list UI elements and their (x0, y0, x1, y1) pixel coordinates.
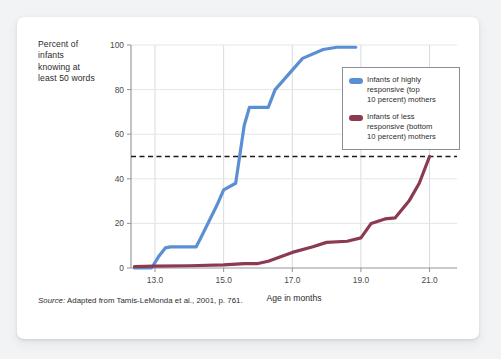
source-note-lead: Source: (38, 296, 65, 305)
legend-swatch-blue (349, 78, 363, 84)
x-axis-ticks: 13.015.017.019.021.0 (147, 268, 438, 285)
y-axis-ticks: 020406080100 (110, 40, 131, 273)
chart-legend: Infants of highly responsive (top 10 per… (342, 67, 460, 150)
figure-card: Percent of infants knowing at least 50 w… (17, 17, 479, 339)
legend-line-2: responsive (top (367, 85, 420, 94)
series-line-less-responsive (134, 157, 429, 267)
legend-item-less-responsive: Infants of less responsive (bottom 10 pe… (349, 112, 453, 141)
x-tick-label: 13.0 (147, 275, 164, 285)
legend-line-2: responsive (bottom (367, 122, 432, 131)
source-note: Source: Adapted from Tamis-LeMonda et al… (38, 296, 243, 305)
y-tick-label: 80 (115, 85, 125, 95)
legend-swatch-maroon (349, 115, 363, 121)
legend-label-highly-responsive: Infants of highly responsive (top 10 per… (367, 75, 436, 104)
legend-label-less-responsive: Infants of less responsive (bottom 10 pe… (367, 112, 436, 141)
x-tick-label: 21.0 (421, 275, 438, 285)
legend-line-3: 10 percent) mothers (367, 132, 436, 141)
y-tick-label: 60 (115, 129, 125, 139)
line-chart: 020406080100 13.015.017.019.021.0 Age in… (17, 17, 479, 339)
x-tick-label: 15.0 (215, 275, 232, 285)
legend-line-1: Infants of less (367, 112, 415, 121)
series-line-highly-responsive (134, 47, 355, 268)
chart-plot-area: 020406080100 13.015.017.019.021.0 Age in… (17, 17, 479, 339)
x-tick-label: 17.0 (284, 275, 301, 285)
y-tick-label: 0 (119, 263, 124, 273)
y-tick-label: 40 (115, 174, 125, 184)
y-tick-label: 20 (115, 218, 125, 228)
x-axis-title: Age in months (267, 293, 322, 303)
legend-line-3: 10 percent) mothers (367, 95, 436, 104)
source-note-text: Adapted from Tamis-LeMonda et al., 2001,… (65, 296, 242, 305)
screenshot-page: Percent of infants knowing at least 50 w… (0, 0, 501, 359)
legend-line-1: Infants of highly (367, 75, 421, 84)
x-tick-label: 19.0 (353, 275, 370, 285)
y-tick-label: 100 (110, 40, 124, 50)
legend-item-highly-responsive: Infants of highly responsive (top 10 per… (349, 75, 453, 104)
